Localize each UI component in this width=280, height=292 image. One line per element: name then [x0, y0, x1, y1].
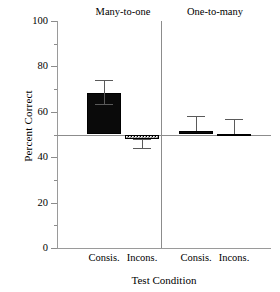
- x-tick-label-3: Incons.: [219, 252, 250, 263]
- y-minor-tick-10: [54, 225, 57, 226]
- panel-divider: [161, 21, 162, 248]
- error-bar-cap-top: [133, 139, 151, 140]
- error-bar: [133, 139, 151, 149]
- error-bar-cap-top: [187, 116, 205, 117]
- y-minor-tick-70: [54, 89, 57, 90]
- y-tick-label: 100: [32, 16, 48, 27]
- error-bar-cap-top: [95, 80, 113, 81]
- y-tick-mark: [51, 157, 57, 158]
- error-bar-stem: [234, 119, 235, 134]
- group-title-one-to-many: One-to-many: [187, 6, 243, 17]
- y-minor-tick-30: [54, 180, 57, 181]
- y-tick-label: 80: [38, 61, 49, 72]
- error-bar: [225, 119, 243, 134]
- chart-figure: Percent Correct 020406080100 Many-to-one…: [0, 0, 280, 292]
- x-axis-title: Test Condition: [57, 274, 271, 286]
- y-minor-tick-90: [54, 44, 57, 45]
- x-tick-label-2: Consis.: [180, 252, 211, 263]
- x-tick-label-0: Consis.: [88, 252, 119, 263]
- y-tick-mark: [51, 21, 57, 22]
- bar-one-to-many-consis: [179, 131, 213, 135]
- bar-one-to-many-incons: [217, 134, 251, 136]
- y-tick-label: 0: [43, 243, 48, 254]
- error-bar: [187, 116, 205, 130]
- y-tick-mark: [51, 248, 57, 249]
- y-tick-label: 20: [38, 197, 49, 208]
- x-tick-label-1: Incons.: [127, 252, 158, 263]
- y-tick-mark: [51, 66, 57, 67]
- error-bar-cap-top: [225, 119, 243, 120]
- error-bar-stem: [104, 80, 105, 105]
- y-tick-mark: [51, 203, 57, 204]
- error-bar-stem: [196, 116, 197, 130]
- y-tick-mark: [51, 112, 57, 113]
- error-bar: [95, 80, 113, 105]
- x-axis-line: [57, 248, 271, 249]
- y-tick-label: 60: [38, 107, 49, 118]
- plot-area: 020406080100: [57, 21, 271, 248]
- y-axis-title: Percent Correct: [22, 46, 34, 206]
- error-bar-cap-bottom: [133, 148, 151, 149]
- error-bar-cap-bottom: [95, 104, 113, 105]
- y-tick-label: 40: [38, 152, 49, 163]
- group-title-many-to-one: Many-to-one: [96, 6, 151, 17]
